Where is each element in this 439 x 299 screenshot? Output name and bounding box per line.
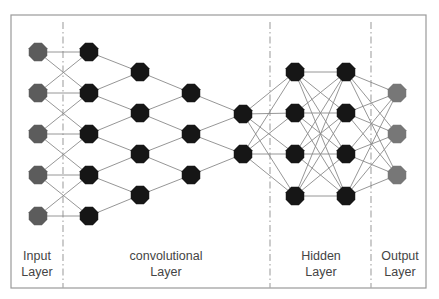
label-line: Hidden: [281, 248, 361, 264]
input-node: [29, 125, 47, 143]
label-line: Layer: [281, 264, 361, 280]
conv2-node: [131, 145, 149, 163]
input-layer-label: Input Layer: [7, 248, 67, 280]
label-line: Layer: [106, 264, 226, 280]
convolutional-layer-label: convolutional Layer: [106, 248, 226, 280]
input-node: [29, 84, 47, 102]
hidden2-node: [337, 187, 355, 205]
conv4-node: [234, 145, 252, 163]
conv1-node: [80, 43, 98, 61]
conv3-node: [182, 166, 200, 184]
label-line: Input: [7, 248, 67, 264]
conv2-node: [131, 186, 149, 204]
hidden1-node: [286, 104, 304, 122]
conv3-node: [182, 125, 200, 143]
label-line: Layer: [7, 264, 67, 280]
conv2-node: [131, 104, 149, 122]
conv1-node: [80, 207, 98, 225]
hidden1-node: [286, 145, 304, 163]
output-node: [388, 125, 406, 143]
conv1-node: [80, 125, 98, 143]
label-line: Output: [372, 248, 428, 264]
input-node: [29, 207, 47, 225]
input-node: [29, 43, 47, 61]
conv3-node: [182, 84, 200, 102]
input-node: [29, 166, 47, 184]
hidden1-node: [286, 63, 304, 81]
hidden1-node: [286, 187, 304, 205]
hidden-layer-label: Hidden Layer: [281, 248, 361, 280]
output-layer-label: Output Layer: [372, 248, 428, 280]
conv1-node: [80, 84, 98, 102]
conv4-node: [234, 105, 252, 123]
conv2-node: [131, 63, 149, 81]
label-line: convolutional: [106, 248, 226, 264]
output-node: [388, 84, 406, 102]
label-line: Layer: [372, 264, 428, 280]
hidden2-node: [337, 63, 355, 81]
output-node: [388, 166, 406, 184]
conv1-node: [80, 166, 98, 184]
hidden2-node: [337, 145, 355, 163]
hidden2-node: [337, 104, 355, 122]
